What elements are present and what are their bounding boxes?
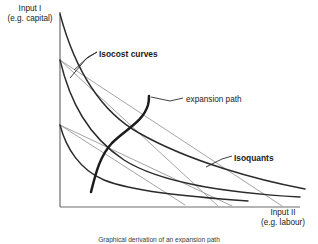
isoquant-leader-line [206, 156, 232, 167]
x-axis-label: Input II (e.g. labour) [252, 208, 314, 228]
x-axis-label-line2: (e.g. labour) [261, 218, 305, 227]
expansion-path-label: expansion path [186, 95, 242, 105]
isocost-curves-label: Isocost curves [99, 49, 158, 59]
isoquants-label: Isoquants [234, 153, 274, 163]
y-axis-label: Input I (e.g. capital) [2, 4, 58, 24]
y-axis-label-line2: (e.g. capital) [7, 14, 52, 23]
x-axis-label-line1: Input II [270, 208, 295, 217]
isoquant-isocost-diagram: Input I (e.g. capital) Input II (e.g. la… [0, 0, 318, 244]
y-axis-label-line1: Input I [19, 4, 42, 13]
figure-caption: Graphical derivation of an expansion pat… [0, 236, 318, 243]
expansion-leader-line [151, 97, 183, 101]
